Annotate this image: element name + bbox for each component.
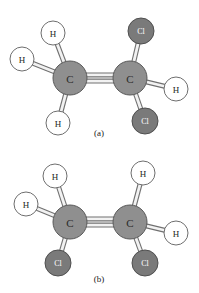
atom-a-h-topleft: H	[41, 21, 65, 45]
panel-caption-panel-b: (b)	[94, 274, 105, 284]
atom-sphere-c	[53, 61, 87, 95]
atom-sphere-cl	[132, 250, 158, 276]
atom-b-h-topleft: H	[43, 164, 67, 188]
atom-b-c-right: C	[113, 205, 147, 239]
atom-b-h-left: H	[14, 192, 38, 216]
atom-sphere-h	[10, 47, 34, 71]
atom-sphere-c	[113, 61, 147, 95]
atom-sphere-cl	[128, 18, 154, 44]
atom-sphere-h	[164, 221, 188, 245]
atom-sphere-c	[53, 205, 87, 239]
panel-caption-panel-a: (a)	[94, 128, 104, 138]
atom-b-cl-bottomright: Cl	[132, 250, 158, 276]
molecule-diagram: CCHHHClHClCCHHClHHCl (a)(b)	[0, 0, 199, 293]
atom-sphere-h	[131, 161, 155, 185]
atom-a-h-bottomleft: H	[46, 111, 70, 135]
atom-a-h-right: H	[164, 77, 188, 101]
figure-background	[0, 0, 199, 293]
atom-a-c-right: C	[113, 61, 147, 95]
atom-sphere-h	[43, 164, 67, 188]
atom-a-cl-top: Cl	[128, 18, 154, 44]
atom-sphere-cl	[132, 108, 158, 134]
atom-b-c-left: C	[53, 205, 87, 239]
atom-sphere-h	[164, 77, 188, 101]
atom-sphere-h	[41, 21, 65, 45]
atom-b-h-topright: H	[131, 161, 155, 185]
atom-a-c-left: C	[53, 61, 87, 95]
atom-b-h-right: H	[164, 221, 188, 245]
atom-sphere-h	[46, 111, 70, 135]
atom-sphere-cl	[45, 250, 71, 276]
atom-b-cl-bottomleft: Cl	[45, 250, 71, 276]
atom-sphere-c	[113, 205, 147, 239]
figure-root: CCHHHClHClCCHHClHHCl (a)(b)	[0, 0, 199, 293]
atom-a-h-left: H	[10, 47, 34, 71]
atom-sphere-h	[14, 192, 38, 216]
atom-a-cl-bottom: Cl	[132, 108, 158, 134]
